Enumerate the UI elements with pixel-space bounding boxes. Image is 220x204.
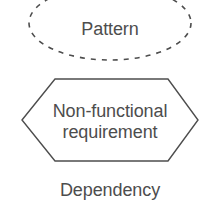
non-functional-requirement-label: Non-functionalrequirement (0, 101, 220, 142)
nfr-label-line-1: Non-functional (53, 101, 168, 121)
diagram-canvas: Pattern Non-functionalrequirement Depend… (0, 0, 220, 204)
pattern-label: Pattern (0, 19, 220, 39)
nfr-label-line-2: requirement (0, 122, 220, 142)
dependency-label: Dependency (0, 180, 220, 200)
